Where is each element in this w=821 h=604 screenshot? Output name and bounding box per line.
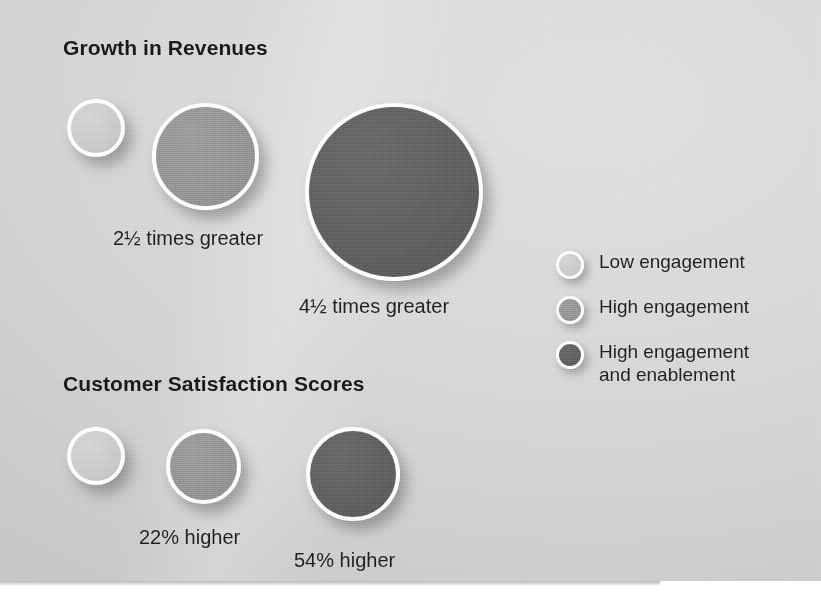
bubble-revenues-high-engagement-and-enablement [305,103,483,281]
legend-item-high-engagement-and-enablement: High engagement and enablement [556,340,749,386]
legend-item-low-engagement: Low engagement [556,250,749,279]
caption-satisfaction-high-engagement: 22% higher [139,526,240,549]
bubble-revenues-low-engagement [67,99,125,157]
bubble-satisfaction-high-engagement [166,429,241,504]
bubble-satisfaction-low-engagement [67,427,125,485]
legend-item-high-engagement: High engagement [556,295,749,324]
chart-panel: Growth in Revenues 2½ times greater 4½ t… [0,0,821,581]
legend-swatch-low-engagement-icon [556,251,584,279]
legend: Low engagement High engagement High enga… [556,250,749,402]
legend-label-low-engagement: Low engagement [599,250,745,273]
legend-swatch-high-engagement-and-enablement-icon [556,341,584,369]
legend-label-high-engagement: High engagement [599,295,749,318]
caption-revenues-high-engagement-and-enablement: 4½ times greater [299,295,449,318]
section-title-revenues: Growth in Revenues [63,36,268,60]
legend-swatch-high-engagement-icon [556,296,584,324]
section-title-customer-satisfaction: Customer Satisfaction Scores [63,372,365,396]
footer-strip [0,581,821,604]
infographic-canvas: Growth in Revenues 2½ times greater 4½ t… [0,0,821,604]
caption-satisfaction-high-engagement-and-enablement: 54% higher [294,549,395,572]
bubble-satisfaction-high-engagement-and-enablement [306,427,400,521]
caption-revenues-high-engagement: 2½ times greater [113,227,263,250]
legend-label-high-engagement-and-enablement: High engagement and enablement [599,340,749,386]
bubble-revenues-high-engagement [152,103,259,210]
